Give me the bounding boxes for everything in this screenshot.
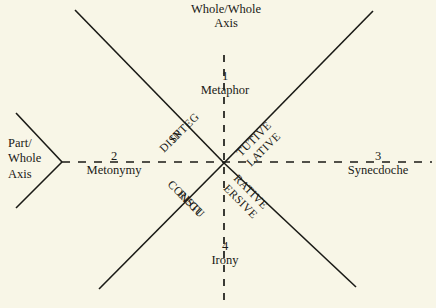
vertical-axis-label: Whole/Whole Axis bbox=[176, 3, 276, 30]
horizontal-axis-label-line2: Whole bbox=[8, 151, 41, 165]
pole-synecdoche: 3 Synecdoche bbox=[322, 150, 434, 177]
horizontal-axis-label-line3: Axis bbox=[8, 167, 32, 181]
figure-canvas: Whole/Whole Axis Part/ Whole Axis 1 Meta… bbox=[0, 0, 436, 308]
horizontal-axis-label-line1: Part/ bbox=[8, 136, 32, 150]
horizontal-axis-label: Part/ Whole Axis bbox=[8, 136, 66, 182]
pole-metonymy-name: Metonymy bbox=[87, 163, 142, 177]
vertical-axis-label-line1: Whole/Whole bbox=[191, 2, 261, 16]
pole-irony-number: 4 bbox=[184, 240, 266, 254]
pole-metonymy-number: 2 bbox=[62, 150, 166, 164]
diagonal-lower-left bbox=[99, 163, 224, 289]
pole-irony-name: Irony bbox=[211, 253, 238, 267]
pole-irony: 4 Irony bbox=[184, 240, 266, 267]
pole-metaphor-number: 1 bbox=[184, 70, 266, 84]
pole-metonymy: 2 Metonymy bbox=[62, 150, 166, 177]
pole-metaphor-name: Metaphor bbox=[201, 83, 250, 97]
pole-synecdoche-name: Synecdoche bbox=[348, 163, 408, 177]
pole-metaphor: 1 Metaphor bbox=[184, 70, 266, 97]
pole-synecdoche-number: 3 bbox=[322, 150, 434, 164]
vertical-axis-label-line2: Axis bbox=[214, 16, 238, 30]
